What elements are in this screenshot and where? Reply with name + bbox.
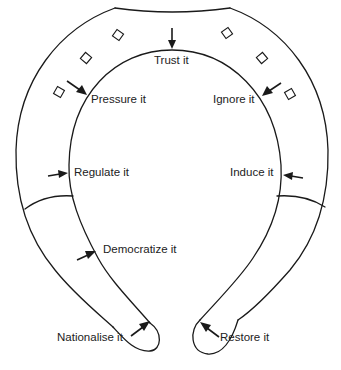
arrow-pressure-icon — [67, 81, 87, 95]
label-ignore: Ignore it — [213, 93, 255, 105]
label-induce: Induce it — [230, 166, 274, 178]
top-notch — [115, 8, 230, 12]
right-cross-band — [277, 196, 325, 207]
label-restore: Restore it — [220, 331, 270, 343]
nail-hole-right-3 — [285, 89, 296, 100]
nail-hole-right-1 — [221, 27, 232, 38]
nail-hole-left-1 — [112, 29, 123, 40]
nail-hole-left-3 — [54, 87, 65, 98]
label-democratize: Democratize it — [103, 243, 177, 255]
arrow-induce-icon — [283, 172, 303, 180]
labels: Trust it Pressure it Ignore it Regulate … — [57, 54, 274, 343]
label-trust: Trust it — [154, 54, 190, 66]
arrow-nationalise-icon — [131, 321, 150, 336]
label-nationalise: Nationalise it — [57, 331, 124, 343]
arrows — [48, 28, 303, 337]
label-regulate: Regulate it — [74, 166, 130, 178]
arrow-regulate-icon — [48, 170, 68, 178]
arrow-democratize-icon — [77, 251, 96, 260]
arrow-trust-icon — [168, 28, 176, 49]
label-pressure: Pressure it — [91, 93, 147, 105]
nail-hole-right-2 — [256, 52, 267, 63]
horseshoe-diagram: Trust it Pressure it Ignore it Regulate … — [0, 0, 341, 370]
arrow-restore-icon — [200, 322, 219, 337]
inner-edge — [69, 50, 281, 323]
left-cross-band — [25, 196, 73, 209]
nail-hole-left-2 — [80, 52, 91, 63]
arrow-ignore-icon — [262, 83, 281, 96]
outer-right-edge — [230, 8, 328, 320]
